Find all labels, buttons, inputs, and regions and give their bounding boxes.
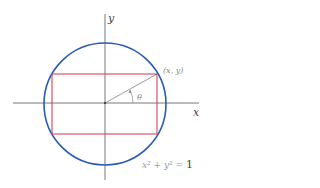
x-axis-label: x bbox=[193, 107, 199, 118]
origin-dot bbox=[104, 102, 106, 104]
angle-arrowhead bbox=[129, 90, 132, 93]
y-axis-label: y bbox=[108, 13, 114, 24]
angle-label: θ bbox=[137, 94, 142, 102]
circle-equation: x² + y² = 1 bbox=[142, 159, 193, 170]
equation-rhs: 1 bbox=[186, 158, 193, 171]
radius-line bbox=[105, 74, 157, 103]
point-label: (x, y) bbox=[163, 67, 183, 75]
equation-lhs: x² + y² = bbox=[142, 160, 186, 170]
